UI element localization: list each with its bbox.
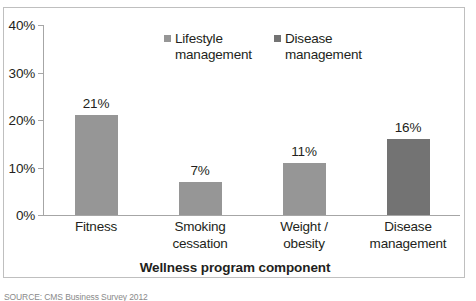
x-axis-category-labels: FitnessSmoking cessationWeight / obesity…: [44, 219, 460, 263]
y-tick-label: 40%: [9, 18, 35, 33]
bar[interactable]: 7%: [179, 182, 222, 215]
x-axis-line: [43, 215, 460, 216]
y-tick-mark: [38, 73, 43, 74]
bar-value-label: 11%: [291, 144, 316, 159]
bar[interactable]: 21%: [75, 115, 118, 215]
bar-value-label: 7%: [190, 163, 209, 178]
bar[interactable]: 11%: [283, 163, 326, 215]
bar-value-label: 16%: [395, 120, 421, 135]
source-note: SOURCE: CMS Business Survey 2012: [4, 292, 148, 301]
y-tick-mark: [38, 215, 43, 216]
y-tick-mark: [38, 120, 43, 121]
y-tick-mark: [38, 168, 43, 169]
x-axis-category-label: Weight / obesity: [252, 219, 356, 252]
y-tick-label: 30%: [9, 65, 35, 80]
bar-value-label: 21%: [83, 96, 109, 111]
y-tick-mark: [38, 25, 43, 26]
bars-layer: 21%7%11%16%: [44, 25, 460, 215]
y-tick-label: 0%: [16, 208, 35, 223]
y-tick-label: 10%: [9, 160, 35, 175]
x-axis-title: Wellness program component: [4, 260, 466, 275]
y-tick-label: 20%: [9, 113, 35, 128]
x-axis-category-label: Fitness: [44, 219, 148, 236]
x-axis-category-label: Smoking cessation: [148, 219, 252, 252]
x-axis-category-label: Disease management: [356, 219, 460, 252]
chart-frame: Lifestyle management Disease management …: [3, 7, 465, 278]
bar[interactable]: 16%: [387, 139, 430, 215]
plot-area: 0%10%20%30%40% 21%7%11%16%: [43, 25, 459, 215]
